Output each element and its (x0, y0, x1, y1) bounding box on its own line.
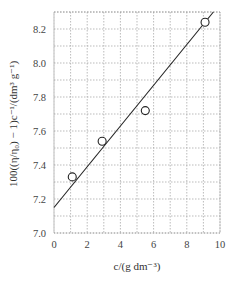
y-axis-label: 100((η/η₀) − 1)c⁻¹/(dm³ g⁻¹) (7, 61, 20, 188)
x-tick-label: 2 (85, 239, 90, 250)
data-point-marker (201, 18, 209, 26)
x-tick-label: 8 (184, 239, 189, 250)
data-point-marker (98, 137, 106, 145)
y-tick-label: 8.0 (33, 58, 46, 69)
y-tick-label: 8.2 (33, 24, 46, 35)
y-tick-label: 7.4 (33, 160, 47, 171)
y-tick-labels: 7.07.27.47.67.88.08.2 (33, 24, 47, 239)
fit-line (54, 12, 213, 208)
y-tick-label: 7.8 (33, 92, 46, 103)
x-tick-label: 6 (151, 239, 156, 250)
x-tick-label: 0 (51, 239, 56, 250)
fit-line-segment (54, 12, 213, 208)
chart: 0246810 7.07.27.47.67.88.08.2 c/(g dm⁻³)… (0, 0, 238, 282)
y-tick-label: 7.0 (33, 228, 46, 239)
data-point-marker (141, 107, 149, 115)
x-tick-label: 4 (118, 239, 124, 250)
data-point-marker (68, 173, 76, 181)
x-tick-label: 10 (215, 239, 226, 250)
y-tick-label: 7.2 (33, 194, 46, 205)
y-tick-label: 7.6 (33, 126, 46, 137)
grid (54, 12, 220, 233)
x-tick-labels: 0246810 (51, 239, 225, 250)
x-axis-label: c/(g dm⁻³) (114, 260, 161, 273)
